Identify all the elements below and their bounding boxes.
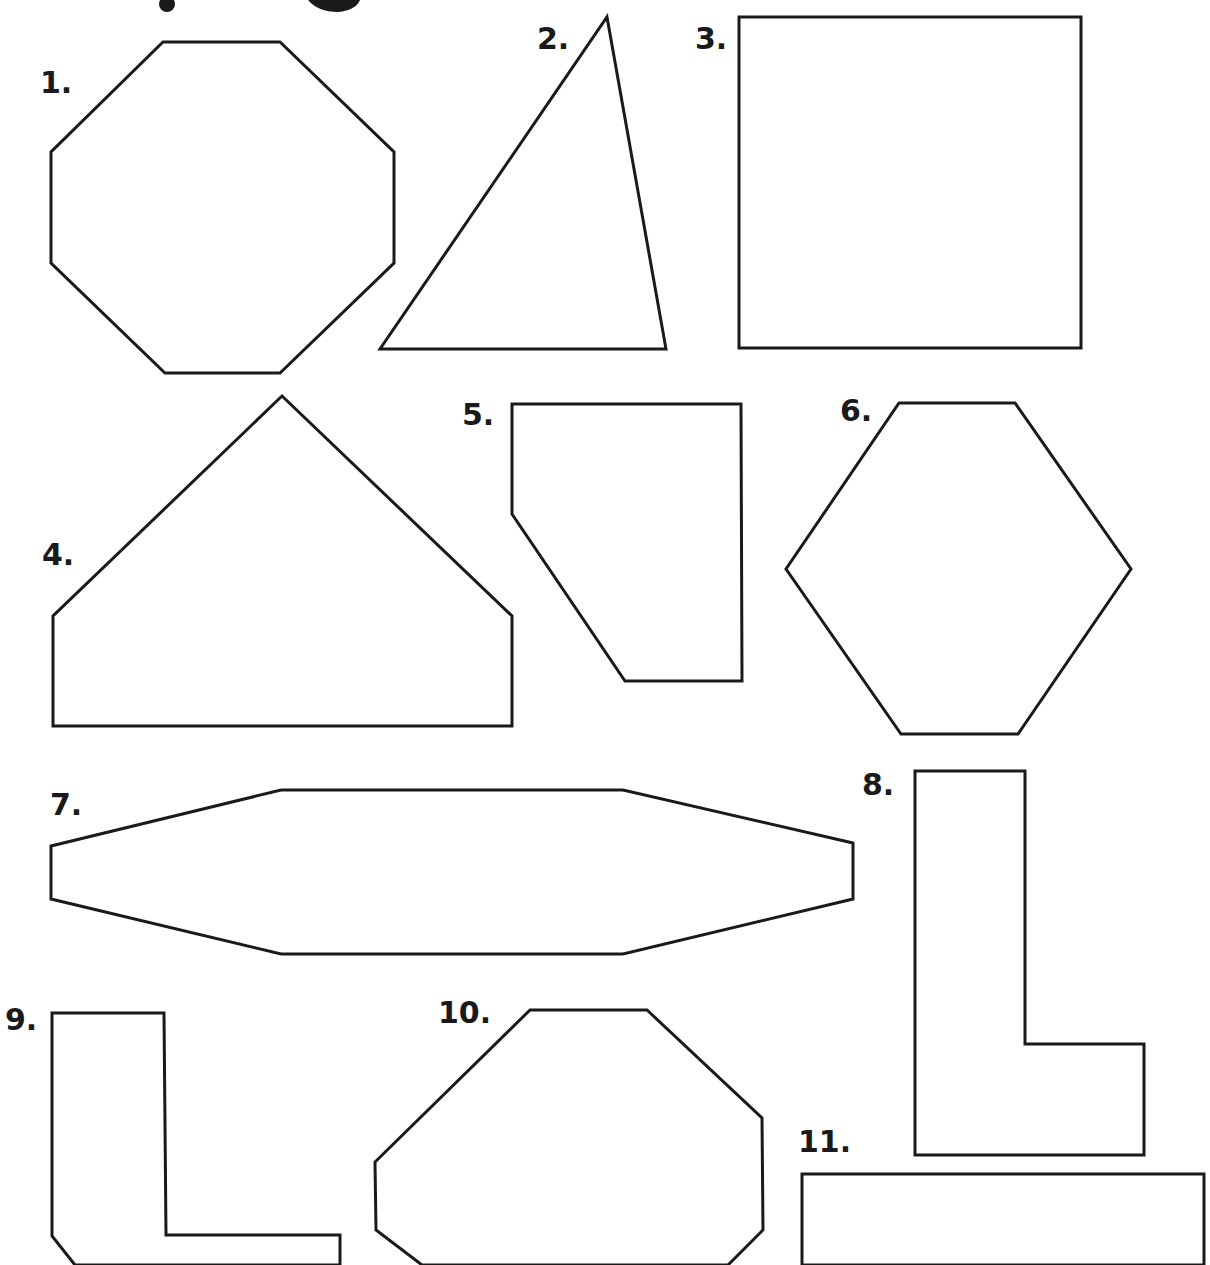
shape-number-label: 11.: [798, 1127, 851, 1157]
shape-number-label: 9.: [5, 1005, 37, 1035]
shape-7-hexagon: [51, 790, 853, 954]
shape-number-label: 1.: [40, 68, 72, 98]
shape-5-pentagon: [512, 404, 742, 681]
shape-number-label: 8.: [862, 770, 894, 800]
shape-number-label: 4.: [42, 540, 74, 570]
shape-8-l-shape: [915, 771, 1144, 1155]
shape-11-rectangle: [802, 1174, 1204, 1265]
shape-number-label: 6.: [840, 396, 872, 426]
shape-9-l-shape: [52, 1013, 340, 1265]
shape-number-label: 7.: [50, 790, 82, 820]
cropped-title-glyph: [308, 0, 360, 12]
shape-1-octagon: [51, 42, 394, 373]
shape-4-pentagon: [53, 396, 512, 726]
shape-6-hexagon: [786, 403, 1131, 734]
shape-2-triangle: [380, 17, 666, 349]
shape-number-label: 3.: [695, 24, 727, 54]
shape-3-square: [739, 17, 1081, 348]
shape-number-label: 2.: [537, 24, 569, 54]
shape-number-label: 10.: [438, 998, 491, 1028]
cropped-title-glyph: [159, 0, 175, 12]
shapes-canvas: [0, 0, 1210, 1265]
shape-number-label: 5.: [462, 400, 494, 430]
shape-10-octagon: [375, 1010, 763, 1265]
